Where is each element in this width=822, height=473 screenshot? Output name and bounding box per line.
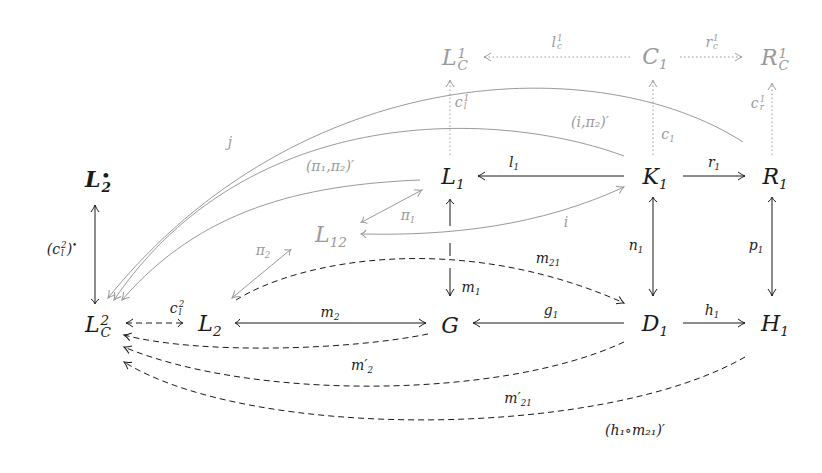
node-H1: H1: [761, 311, 789, 339]
label-cl1: c1l: [455, 94, 469, 111]
label-m1: m1: [462, 279, 481, 298]
label-h1: h1: [705, 302, 720, 321]
node-LC1: L1C: [442, 45, 468, 71]
node-L2-bullet: L•2: [85, 166, 111, 193]
label-pi1-pi2: (π₁,π₂)′: [306, 158, 354, 174]
node-R1: R1: [762, 164, 787, 192]
label-p1: p1: [749, 237, 764, 256]
label-h1-comp-m21-prime: (h₁∘m₂₁)′: [605, 422, 665, 438]
edge-pi1-pi2: [122, 180, 420, 300]
label-cl2: c2l: [170, 300, 184, 317]
label-i-pi2: (i,π₂)′: [571, 114, 609, 130]
node-D1: D1: [642, 311, 668, 339]
node-LC2: L2C: [85, 312, 111, 338]
diagram-edges: [0, 0, 822, 473]
label-m21-prime: m′21: [504, 390, 532, 409]
label-c1: c1: [661, 126, 674, 145]
label-cl2-bullet: (c2l)•: [47, 240, 77, 257]
label-n1: n1: [629, 237, 644, 256]
edge-m2p: [124, 334, 428, 348]
label-rc1: r1c: [705, 34, 718, 51]
label-g1: g1: [544, 302, 559, 321]
label-m21: m21: [536, 250, 560, 269]
label-l1: l1: [509, 154, 519, 173]
node-L1: L1: [441, 164, 464, 192]
edge-h1m21p: [124, 357, 745, 420]
label-j: j: [228, 134, 232, 150]
edge-m21: [236, 259, 624, 303]
node-G: G: [441, 313, 459, 338]
label-cr1: c1r: [751, 95, 765, 112]
label-pi2: π2: [256, 242, 271, 261]
node-L2: L2: [198, 311, 221, 339]
label-pi1: π1: [401, 207, 416, 226]
edge-m21p: [124, 342, 624, 386]
edge-j: [108, 88, 743, 298]
label-lc1: l1c: [551, 34, 562, 51]
node-C1: C1: [642, 44, 668, 72]
label-r1: r1: [708, 154, 720, 173]
label-m2: m2: [321, 304, 340, 323]
node-RC1: R1C: [761, 45, 789, 71]
label-i: i: [564, 214, 568, 230]
node-L12: L12: [315, 222, 347, 250]
node-K1: K1: [642, 164, 667, 192]
label-m2-prime: m′2: [351, 357, 373, 376]
